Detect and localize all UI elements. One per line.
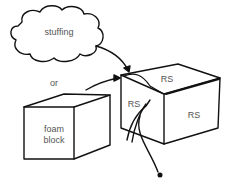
cushion-right-rs-label: RS xyxy=(184,110,204,121)
arrow-cloud-to-cushion xyxy=(96,46,128,70)
foam-label-line2: block xyxy=(34,135,74,146)
stuffing-label: stuffing xyxy=(34,27,84,38)
cushion-top-rs-label: RS xyxy=(157,74,177,85)
or-label: or xyxy=(44,78,64,89)
arrow-or-to-cushion xyxy=(86,78,118,90)
foam-label-line1: foam xyxy=(34,124,74,135)
cushion-left-rs-label: RS xyxy=(124,99,144,110)
diagram-canvas: stuffing or foam block RS RS RS xyxy=(0,0,232,184)
